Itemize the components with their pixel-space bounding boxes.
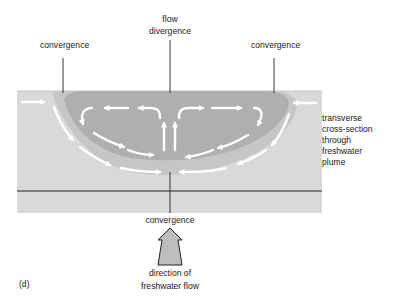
label-convergence-left: convergence: [40, 40, 89, 51]
label-direction-of: direction of: [149, 268, 191, 279]
label-convergence-bottom: convergence: [145, 215, 194, 226]
label-divergence: divergence: [149, 26, 191, 37]
label-flow: flow: [162, 14, 177, 25]
label-cross-section: transverse cross-section through freshwa…: [322, 113, 373, 168]
freshwater-plume-diagram: convergence flow divergence convergence …: [0, 0, 393, 304]
label-line: plume: [322, 157, 373, 168]
label-line: freshwater: [322, 146, 373, 157]
panel-label: (d): [19, 279, 30, 290]
label-line: through: [322, 135, 373, 146]
label-line: transverse: [322, 113, 373, 124]
label-freshwater-flow: freshwater flow: [141, 281, 199, 292]
up-block-arrow-icon: [158, 228, 182, 265]
label-line: cross-section: [322, 124, 373, 135]
label-convergence-right: convergence: [251, 40, 300, 51]
